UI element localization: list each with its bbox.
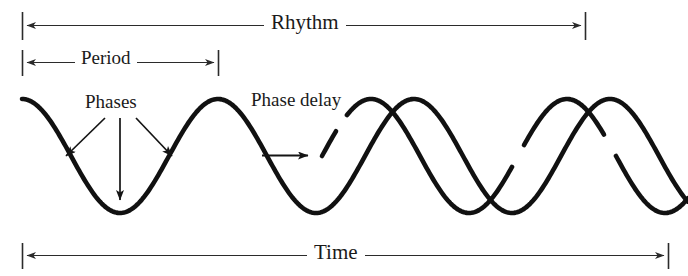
phases-label: Phases [81, 92, 141, 111]
reference-wave [22, 99, 688, 213]
phases-pointers [66, 118, 172, 200]
phase-delay-label: Phase delay [247, 90, 345, 109]
rhythm-label: Rhythm [264, 12, 346, 33]
period-label: Period [75, 48, 137, 67]
figure-root: Rhythm Period Time Phases Phase delay [0, 0, 688, 276]
delayed-wave-segment [322, 131, 336, 156]
diagram-canvas [0, 0, 688, 276]
time-label: Time [307, 242, 365, 263]
